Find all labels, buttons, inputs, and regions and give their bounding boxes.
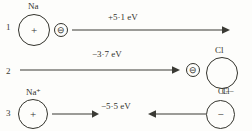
row3-sodium-ion-label: Na⁺ (26, 87, 42, 97)
row1-electron-charge-glyph: ⊖ (57, 25, 65, 34)
row3-sodium-ion: + (18, 99, 48, 129)
row2-arrow-right-icon (20, 64, 182, 76)
row1-electron: ⊖ (54, 23, 68, 37)
row2-chlorine-atom (206, 57, 238, 89)
row3-arrow-right-icon (52, 108, 100, 120)
row3-arrow-left-icon (148, 108, 206, 120)
row3-chloride-ion-charge: − (217, 109, 223, 120)
row3-sodium-ion-charge: + (30, 108, 36, 119)
row1-sodium-atom: + (18, 14, 50, 46)
row3-chloride-label: Cl− (222, 87, 234, 96)
row-number-1: 1 (6, 22, 11, 32)
row1-sodium-charge: + (31, 24, 37, 35)
row2-energy-label: −3·7 eV (92, 49, 122, 59)
row2-electron: ⊖ (186, 63, 200, 77)
row1-energy-label: +5·1 eV (108, 12, 138, 22)
row1-arrow-right-icon (72, 24, 232, 36)
row3-energy-label: −5·5 eV (101, 101, 131, 111)
row3-chloride-ion: − (206, 100, 235, 129)
row-number-2: 2 (6, 66, 11, 76)
row1-sodium-label: Na (28, 1, 39, 11)
energy-diagram: 1 Na + ⊖ +5·1 eV 2 −3·7 eV ⊖ Cl Cl− 3 Na… (0, 0, 252, 131)
row-number-3: 3 (6, 108, 11, 118)
row2-chlorine-label: Cl (215, 45, 224, 55)
row2-electron-charge-glyph: ⊖ (189, 65, 197, 74)
